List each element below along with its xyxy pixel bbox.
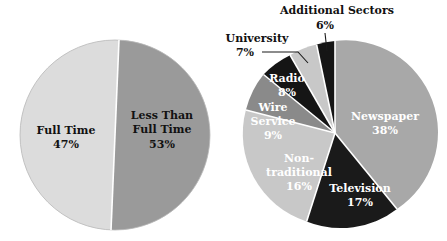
left-pie-chart: Full Time 47% Less Than Full Time 53% bbox=[20, 40, 210, 230]
dual-pie-chart-figure: Full Time 47% Less Than Full Time 53% bbox=[0, 0, 447, 241]
right-pie-label-television: Television bbox=[329, 182, 390, 195]
right-pie-callout-value-university: 7% bbox=[236, 46, 255, 59]
right-pie-chart: Newspaper 38% Television 17% Non- tradit… bbox=[226, 4, 438, 228]
right-pie-label-nontraditional-line2: traditional bbox=[266, 166, 332, 179]
right-pie-callout-label-additional-sectors: Additional Sectors bbox=[279, 4, 394, 17]
right-pie-label-wire-service-line1: Wire bbox=[257, 101, 287, 114]
right-pie-value-radio: 8% bbox=[278, 86, 297, 99]
right-pie-value-nontraditional: 16% bbox=[286, 180, 312, 193]
right-pie-label-wire-service-line2: Service bbox=[250, 115, 295, 128]
charts-canvas: Full Time 47% Less Than Full Time 53% bbox=[0, 0, 447, 241]
left-pie-value-less-than-full-time: 53% bbox=[149, 138, 175, 151]
right-pie-value-television: 17% bbox=[347, 196, 373, 209]
right-pie-value-wire-service: 9% bbox=[264, 129, 283, 142]
left-pie-label-less-than-full-time-line2: Full Time bbox=[133, 123, 192, 136]
right-pie-label-radio: Radio bbox=[269, 72, 305, 85]
left-pie-label-full-time: Full Time bbox=[37, 124, 96, 137]
right-pie-label-newspaper: Newspaper bbox=[351, 110, 419, 123]
right-pie-callout-label-university: University bbox=[226, 32, 289, 45]
right-pie-value-newspaper: 38% bbox=[372, 124, 398, 137]
left-pie-label-less-than-full-time-line1: Less Than bbox=[131, 109, 193, 122]
left-pie-value-full-time: 47% bbox=[53, 138, 79, 151]
right-pie-label-nontraditional-line1: Non- bbox=[284, 152, 314, 165]
right-pie-callout-value-additional-sectors: 6% bbox=[316, 19, 335, 32]
